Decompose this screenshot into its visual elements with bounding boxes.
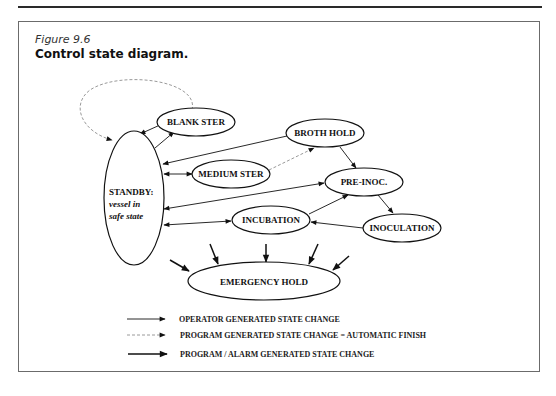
node-medium-ster: MEDIUM STER <box>192 160 270 188</box>
legend-item-operator: OPERATOR GENERATED STATE CHANGE <box>127 315 340 324</box>
legend-item-program: PROGRAM GENERATED STATE CHANGE = AUTOMAT… <box>127 331 427 340</box>
edge-blank-ster-to-standby <box>140 125 160 134</box>
edge-alarm-5 <box>333 256 349 270</box>
edge-broth-hold-to-pre-inoc <box>340 147 356 168</box>
svg-text:PROGRAM GENERATED STATE CHANGE: PROGRAM GENERATED STATE CHANGE = AUTOMAT… <box>180 331 427 340</box>
broth-hold-label: BROTH HOLD <box>294 128 356 138</box>
pre-inoc-label: PRE-INOC. <box>341 177 388 187</box>
node-incubation: INCUBATION <box>232 206 310 234</box>
standby-sub2: safe state <box>108 211 143 221</box>
edge-medium-ster-to-broth-hold-dashed <box>269 148 314 170</box>
edge-inoculation-to-incubation <box>311 222 363 228</box>
edge-incubation-to-pre-inoc <box>309 195 348 214</box>
edge-alarm-4 <box>309 244 318 264</box>
standby-sub1: vessel in <box>109 199 140 209</box>
state-diagram: STANDBY: vessel in safe state BLANK STER… <box>0 0 556 396</box>
edge-standby-to-blank-ster <box>155 132 174 148</box>
blank-ster-label: BLANK STER <box>167 117 225 127</box>
edge-alarm-1 <box>170 260 189 271</box>
node-emergency-hold: EMERGENCY HOLD <box>188 262 340 300</box>
edge-pre-inoc-to-inoculation <box>378 195 393 213</box>
node-inoculation: INOCULATION <box>363 214 441 242</box>
svg-text:OPERATOR GENERATED STATE CHANG: OPERATOR GENERATED STATE CHANGE <box>179 315 340 324</box>
node-standby: STANDBY: vessel in safe state <box>104 131 164 265</box>
node-blank-ster: BLANK STER <box>157 108 235 136</box>
node-broth-hold: BROTH HOLD <box>286 119 364 147</box>
legend: OPERATOR GENERATED STATE CHANGE PROGRAM … <box>127 315 427 359</box>
node-pre-inoc: PRE-INOC. <box>325 168 403 196</box>
medium-ster-label: MEDIUM STER <box>198 169 264 179</box>
incubation-label: INCUBATION <box>242 215 300 225</box>
standby-label: STANDBY: <box>109 187 154 197</box>
legend-item-alarm: PROGRAM / ALARM GENERATED STATE CHANGE <box>128 350 374 359</box>
svg-text:PROGRAM / ALARM GENERATED STAT: PROGRAM / ALARM GENERATED STATE CHANGE <box>180 350 374 359</box>
inoculation-label: INOCULATION <box>370 223 435 233</box>
edge-standby-incubation <box>164 221 231 225</box>
edge-alarm-2 <box>210 244 218 264</box>
emergency-hold-label: EMERGENCY HOLD <box>220 277 308 287</box>
